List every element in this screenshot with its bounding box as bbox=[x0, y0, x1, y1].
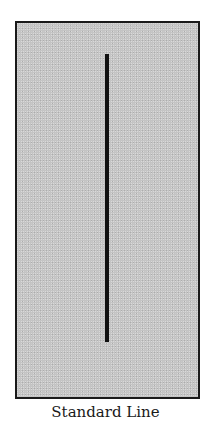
figure-panel bbox=[15, 21, 200, 399]
standard-line bbox=[105, 54, 109, 342]
figure-caption: Standard Line bbox=[0, 403, 211, 421]
